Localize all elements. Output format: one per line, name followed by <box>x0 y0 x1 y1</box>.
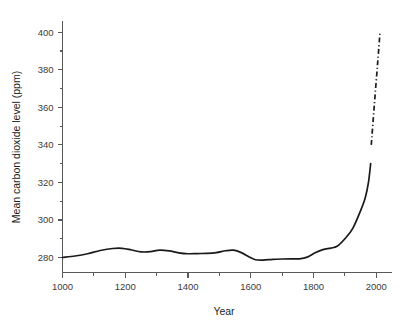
x-tick-label: 1200 <box>115 281 136 292</box>
y-axis-ticks <box>58 32 63 257</box>
x-tick-label: 2000 <box>366 281 387 292</box>
y-axis-title: Mean carbon dioxide level (ppm) <box>10 71 22 223</box>
series-recent-projected-co2 <box>371 31 380 145</box>
co2-line-chart-figure: 280300320340360380400 100012001400160018… <box>0 0 403 330</box>
axes-group <box>62 21 392 273</box>
y-tick-label: 340 <box>38 139 54 150</box>
y-tick-label: 300 <box>38 214 54 225</box>
y-tick-label: 320 <box>38 177 54 188</box>
y-tick-label: 400 <box>38 27 54 38</box>
x-axis-title: Year <box>213 305 235 317</box>
x-tick-label: 1000 <box>52 281 73 292</box>
x-axis-tick-labels: 100012001400160018002000 <box>52 281 387 292</box>
y-tick-label: 280 <box>38 252 54 263</box>
series-group <box>63 31 381 260</box>
y-axis-tick-labels: 280300320340360380400 <box>38 27 54 263</box>
x-tick-label: 1400 <box>177 281 198 292</box>
y-tick-label: 380 <box>38 64 54 75</box>
x-axis-ticks <box>63 273 377 278</box>
chart-canvas: 280300320340360380400 100012001400160018… <box>0 0 403 330</box>
x-tick-label: 1600 <box>240 281 261 292</box>
y-tick-label: 360 <box>38 102 54 113</box>
series-historical-co2 <box>63 164 371 261</box>
x-tick-label: 1800 <box>303 281 324 292</box>
